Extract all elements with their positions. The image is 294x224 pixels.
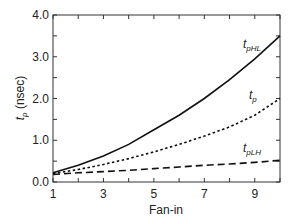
x-tick-label: 7 bbox=[201, 187, 208, 201]
y-axis-title: tp (nsec) bbox=[13, 76, 29, 120]
series-label-tp-sub: p bbox=[251, 95, 257, 104]
x-axis-tick-labels: 13579 bbox=[50, 187, 259, 201]
x-tick-label: 3 bbox=[100, 187, 107, 201]
y-tick-label: 1.0 bbox=[32, 133, 49, 147]
y-tick-label: 3.0 bbox=[32, 50, 49, 64]
x-tick-label: 9 bbox=[251, 187, 258, 201]
y-tick-label: 2.0 bbox=[32, 92, 49, 106]
series-label-tplh: tpLH bbox=[243, 141, 261, 157]
y-axis-title-unit: (nsec) bbox=[13, 76, 27, 113]
x-tick-label: 1 bbox=[50, 187, 57, 201]
y-tick-label: 4.0 bbox=[32, 8, 49, 22]
fan-in-delay-chart: 13579 0.01.02.03.04.0 Fan-in tp (nsec) t… bbox=[0, 0, 294, 224]
y-tick-label: 0.0 bbox=[32, 175, 49, 189]
x-tick-label: 5 bbox=[151, 187, 158, 201]
series-label-tphl: tpHL bbox=[243, 37, 261, 53]
series-label-tphl-sub: pHL bbox=[245, 44, 261, 53]
series-label-tplh-sub: pLH bbox=[245, 148, 261, 157]
series-label-tp: tp bbox=[249, 88, 257, 104]
x-axis-title: Fan-in bbox=[149, 203, 183, 217]
y-axis-tick-labels: 0.01.02.03.04.0 bbox=[32, 8, 49, 189]
